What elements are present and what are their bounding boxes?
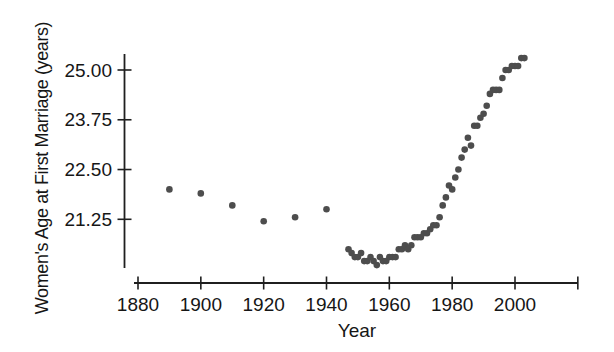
data-point — [323, 206, 330, 213]
data-point — [468, 142, 475, 149]
data-point — [439, 202, 446, 209]
x-tick-label: 1940 — [305, 294, 347, 315]
data-point — [358, 250, 365, 257]
y-tick-label: 21.25 — [64, 209, 112, 230]
y-axis-title: Women's Age at First Marriage (years) — [32, 22, 53, 314]
data-point — [449, 186, 456, 193]
scatterplot-svg: 25.0023.7522.5021.2518801900192019401960… — [0, 0, 614, 352]
x-tick-label: 2000 — [494, 294, 536, 315]
data-point — [455, 166, 462, 173]
data-point — [465, 134, 472, 141]
data-point — [499, 75, 506, 82]
data-point — [408, 242, 415, 249]
x-tick-label: 1880 — [117, 294, 159, 315]
data-point — [433, 222, 440, 229]
data-point — [166, 186, 173, 193]
x-tick-label: 1920 — [243, 294, 285, 315]
y-tick-label: 25.00 — [64, 60, 112, 81]
data-point — [521, 55, 528, 62]
data-point — [496, 87, 503, 94]
data-point — [392, 254, 399, 261]
x-tick-label: 1980 — [431, 294, 473, 315]
y-tick-label: 22.50 — [64, 159, 112, 180]
x-tick-label: 1900 — [180, 294, 222, 315]
x-axis-title: Year — [338, 320, 376, 342]
scatterplot-figure: 25.0023.7522.5021.2518801900192019401960… — [0, 0, 614, 352]
data-point — [515, 63, 522, 70]
data-point — [474, 122, 481, 129]
x-tick-label: 1960 — [368, 294, 410, 315]
data-point — [461, 146, 468, 153]
data-point — [443, 194, 450, 201]
data-point — [436, 214, 443, 221]
data-point — [229, 202, 236, 209]
data-point — [452, 174, 459, 181]
data-point — [458, 154, 465, 161]
data-point — [198, 190, 205, 197]
data-point — [260, 218, 267, 225]
data-point — [292, 214, 299, 221]
data-point — [483, 103, 490, 110]
y-tick-label: 23.75 — [64, 109, 112, 130]
data-point — [480, 111, 487, 118]
data-point — [374, 262, 381, 269]
